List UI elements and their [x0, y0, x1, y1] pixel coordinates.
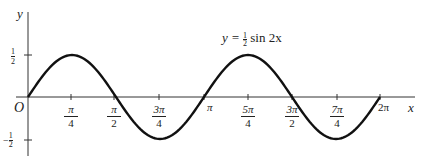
x-axis-label: x: [408, 100, 414, 116]
y-tick-label-neg-half: −12: [3, 132, 13, 149]
x-tick-label-pi-4: π4: [56, 104, 86, 129]
x-tick-label-pi: π: [207, 101, 213, 113]
y-axis-label: y: [17, 6, 23, 22]
sine-plot: [0, 0, 430, 162]
x-tick-label-5pi-4: 5π4: [233, 104, 263, 129]
origin-label: O: [14, 100, 24, 116]
x-tick-label-pi-2: π2: [99, 104, 129, 129]
x-tick-label-2pi: 2π: [378, 101, 389, 113]
x-tick-label-7pi-4: 7π4: [322, 104, 352, 129]
equation-label: y = 12 sin 2x: [222, 30, 282, 47]
x-tick-label-3pi-4: 3π4: [144, 104, 174, 129]
y-tick-label-half: 12: [11, 47, 15, 66]
x-tick-label-3pi-2: 3π2: [277, 104, 307, 129]
